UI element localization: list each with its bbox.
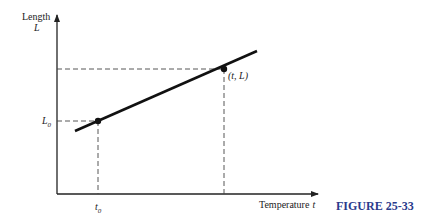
point-label-t-L: (t, L)	[228, 70, 249, 82]
point-t-L	[221, 66, 227, 72]
figure-caption: FIGURE 25-33	[336, 199, 414, 213]
y-axis-label: Length	[22, 11, 50, 22]
y-axis-var: L	[33, 22, 40, 33]
x-axis-label: Temperaturet	[259, 199, 315, 210]
thermal-expansion-diagram: Length L (t, L) L0 t0 Temperaturet FIGUR…	[0, 0, 434, 221]
x-tick-t0: t0	[95, 201, 102, 215]
y-tick-L0: L0	[41, 115, 52, 129]
point-t0-L0	[95, 118, 101, 124]
projection-lines	[57, 69, 224, 194]
length-temperature-line	[75, 51, 257, 131]
